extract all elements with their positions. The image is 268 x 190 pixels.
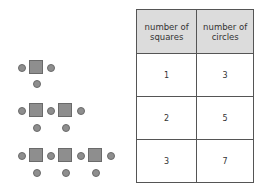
square-shape [58,103,72,117]
circle-shape [18,64,26,72]
circle-shape [33,124,41,132]
circle-shape [77,107,85,115]
circle-shape [47,152,55,160]
circle-shape [47,107,55,115]
circle-shape [62,169,70,177]
squares-circles-table: number of squares number of circles 1 3 … [136,9,254,183]
table-row: 1 3 [137,54,254,97]
circle-shape [77,152,85,160]
circle-shape [47,64,55,72]
square-shape [58,148,72,162]
circle-shape [18,152,26,160]
circle-shape [107,152,115,160]
cell-squares: 1 [137,54,197,97]
circle-shape [18,107,26,115]
header-circles: number of circles [197,10,254,54]
circle-shape [62,124,70,132]
table-row: 3 7 [137,140,254,183]
cell-circles: 3 [197,54,254,97]
table-row: 2 5 [137,97,254,140]
square-shape [29,103,43,117]
circle-shape [33,80,41,88]
circle-shape [92,169,100,177]
square-shape [88,148,102,162]
cell-circles: 7 [197,140,254,183]
header-squares: number of squares [137,10,197,54]
cell-circles: 5 [197,97,254,140]
square-shape [29,148,43,162]
cell-squares: 3 [137,140,197,183]
table-header-row: number of squares number of circles [137,10,254,54]
cell-squares: 2 [137,97,197,140]
square-shape [29,60,43,74]
circle-shape [33,169,41,177]
